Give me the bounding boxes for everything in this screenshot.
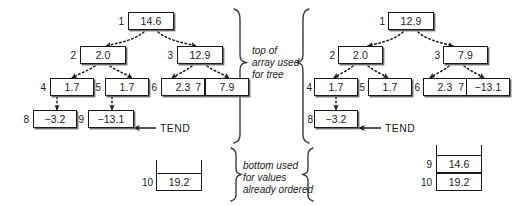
right-node-index-1: 1 (373, 17, 385, 27)
left-sorted-stack: 19.2 (156, 160, 202, 191)
right-node-2: 2.0 (338, 46, 383, 64)
right-node-5: 1.7 (368, 78, 412, 96)
caption-bottom-line-1: bottom used (243, 160, 298, 172)
caption-top-line-3: for tree (252, 69, 284, 81)
left-node-index-7: 7 (189, 83, 201, 93)
left-node-index-3: 3 (161, 51, 173, 61)
right-node-index-7: 7 (452, 83, 464, 93)
right-node-index-3: 3 (428, 51, 440, 61)
brace-top-left (234, 9, 246, 143)
left-node-index-8: 8 (17, 115, 29, 125)
left-node-2: 2.0 (80, 46, 126, 64)
left-node-8: −3.2 (33, 110, 77, 128)
right-tree-links (334, 32, 484, 110)
brace-bottom-left (231, 148, 241, 201)
left-sorted-cell-10: 19.2 (156, 173, 202, 191)
right-node-7: −13.1 (466, 78, 510, 96)
right-node-index-8: 8 (301, 115, 313, 125)
right-node-4: 1.7 (314, 78, 358, 96)
right-sorted-cell-10: 19.2 (436, 173, 482, 191)
left-tree-links (57, 32, 229, 110)
left-node-1: 14.6 (128, 12, 174, 30)
right-sorted-index-10: 10 (417, 178, 432, 188)
right-node-3: 7.9 (443, 46, 488, 64)
left-node-index-9: 9 (72, 115, 84, 125)
right-sorted-index-9: 9 (417, 160, 432, 170)
left-node-index-4: 4 (34, 83, 46, 93)
right-node-index-6: 6 (408, 83, 420, 93)
left-node-3: 12.9 (177, 46, 223, 64)
heapsort-figure: 1 14.6 2 2.0 3 12.9 4 1.7 5 1.7 6 2.3 7 … (0, 0, 513, 206)
right-node-index-4: 4 (300, 83, 312, 93)
left-node-index-5: 5 (89, 83, 101, 93)
left-sorted-index-10: 10 (138, 178, 153, 188)
right-node-1: 12.9 (388, 12, 434, 30)
right-node-index-2: 2 (323, 51, 335, 61)
left-node-index-2: 2 (64, 51, 76, 61)
right-tend-label: TEND (385, 123, 415, 134)
left-node-9: −13.1 (88, 110, 134, 128)
right-sorted-cell-9: 14.6 (436, 155, 482, 173)
caption-bottom-line-3: already ordered (243, 184, 313, 196)
left-node-7: 7.9 (205, 78, 249, 96)
right-sorted-stack: 14.6 19.2 (436, 145, 482, 191)
caption-top-line-2: array used (252, 57, 299, 69)
right-node-8: −3.2 (314, 110, 358, 128)
left-node-index-6: 6 (145, 83, 157, 93)
caption-top-line-1: top of (252, 45, 277, 57)
left-tend-label: TEND (160, 123, 190, 134)
caption-bottom-line-2: for values (243, 172, 286, 184)
right-node-index-5: 5 (353, 83, 365, 93)
left-node-5: 1.7 (105, 78, 149, 96)
left-node-4: 1.7 (50, 78, 94, 96)
left-node-index-1: 1 (112, 17, 124, 27)
